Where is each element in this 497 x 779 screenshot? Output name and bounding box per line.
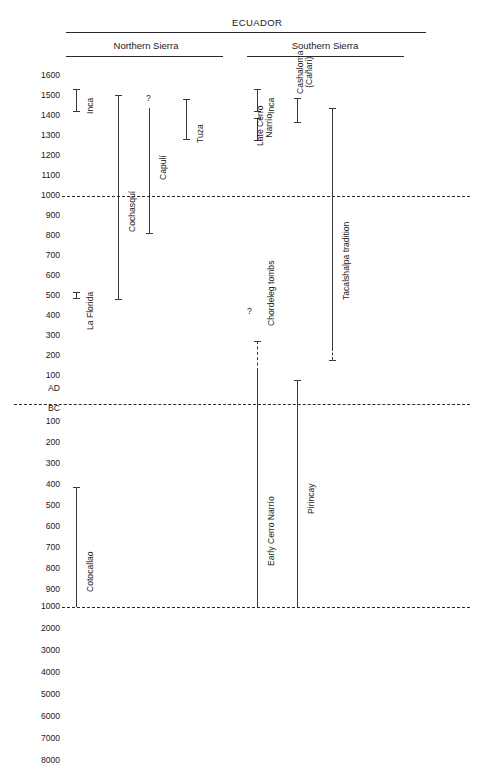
bar-label-cochasqui: Cochasquí	[128, 191, 138, 232]
tick-1300ad: 1300	[18, 131, 60, 140]
tick-1000ad: 1000	[18, 191, 60, 200]
bar-cap-pirincay-top	[294, 380, 301, 381]
tick-800bc: 800	[18, 564, 60, 573]
region-title: ECUADOR	[232, 17, 282, 28]
tick-600ad: 600	[18, 271, 60, 280]
tick-3000bc: 3000	[18, 646, 60, 655]
column-title-southern-sierra: Southern Sierra	[245, 40, 405, 51]
column-rule-northern-sierra	[66, 56, 223, 57]
tick-6000bc: 6000	[18, 712, 60, 721]
reference-line-1000ad	[62, 196, 470, 197]
bar-tacalshalpa-dashed-terminus	[332, 348, 333, 360]
bar-cap-capuli-bottom	[146, 233, 153, 234]
column-title-northern-sierra: Northern Sierra	[66, 40, 226, 51]
bar-cap-cashaloma-bottom	[294, 122, 301, 123]
bar-label-late-cerro-narrio: Late Cerro Narrío	[256, 105, 275, 146]
bar-capuli[interactable]	[149, 108, 150, 233]
bar-cap-tacalshalpa-top	[329, 108, 336, 109]
bar-label-la-florida: La Florida	[86, 292, 96, 330]
tick-900bc: 900	[18, 585, 60, 594]
bar-cap-inca-south-top	[254, 89, 261, 90]
bar-label-tuza: Tuza	[196, 124, 206, 143]
bar-chordeleg-dashed-terminus	[257, 341, 258, 371]
tick-1100ad: 1100	[18, 171, 60, 180]
bar-label-cashaloma-canari: Cashaloma (Cañari)	[296, 51, 315, 94]
bar-cap-tuza-top	[183, 99, 190, 100]
tick-1500ad: 1500	[18, 91, 60, 100]
tick-600bc: 600	[18, 522, 60, 531]
bar-early-cerro-narrio[interactable]	[257, 371, 258, 607]
tick-700ad: 700	[18, 251, 60, 260]
tick-100ad: 100	[18, 371, 60, 380]
bar-cap-inca-north-bottom	[73, 111, 80, 112]
tick-8000bc: 8000	[18, 756, 60, 765]
bar-label-capuli: Capulí	[159, 155, 169, 180]
bar-label-early-cerro-narrio: Early Cerro Narrío	[267, 496, 277, 566]
bar-label-tacalshalpa-tradition: Tacalshalpa tradition	[342, 222, 352, 300]
tick-800ad: 800	[18, 231, 60, 240]
bar-cap-cotocallao-top	[73, 487, 80, 488]
bar-cap-tuza-bottom	[183, 139, 190, 140]
bar-cap-la-florida-top	[73, 292, 80, 293]
bar-label-chordeleg-tombs: Chordeleg tombs	[267, 261, 277, 326]
bar-label-late-cerro-narrio-line2: Narrío	[264, 114, 274, 138]
bar-cashaloma-canari[interactable]	[297, 98, 298, 122]
tick-300bc: 300	[18, 459, 60, 468]
bar-cap-cochasqui-bottom	[115, 299, 122, 300]
tick-300ad: 300	[18, 331, 60, 340]
tick-500bc: 500	[18, 501, 60, 510]
bar-tacalshalpa-tradition[interactable]	[332, 108, 333, 348]
uncertainty-marker-chordeleg: ?	[247, 306, 252, 316]
bar-cap-tacalshalpa-bottom	[329, 360, 336, 361]
bar-cap-cochasqui-top	[115, 95, 122, 96]
bar-pirincay[interactable]	[297, 380, 298, 607]
bar-cap-cashaloma-top	[294, 98, 301, 99]
era-label-ad: AD	[18, 384, 60, 393]
tick-7000bc: 7000	[18, 734, 60, 743]
tick-4000bc: 4000	[18, 668, 60, 677]
bar-cap-la-florida-bottom	[73, 298, 80, 299]
tick-100bc: 100	[18, 417, 60, 426]
bar-cotocallao[interactable]	[76, 487, 77, 607]
tick-900ad: 900	[18, 211, 60, 220]
bar-label-inca-northern-sierra: Inca	[86, 98, 96, 114]
uncertainty-marker-capuli: ?	[146, 93, 151, 103]
tick-400ad: 400	[18, 311, 60, 320]
region-rule	[66, 32, 426, 33]
tick-2000bc: 2000	[18, 624, 60, 633]
reference-line-1000bc	[62, 607, 470, 608]
tick-700bc: 700	[18, 543, 60, 552]
bar-tuza[interactable]	[186, 99, 187, 139]
chronology-chart: ECUADOR Northern Sierra Southern Sierra …	[0, 0, 497, 779]
tick-500ad: 500	[18, 291, 60, 300]
tick-400bc: 400	[18, 480, 60, 489]
tick-5000bc: 5000	[18, 690, 60, 699]
reference-line-ad-bc	[14, 404, 470, 405]
bar-cap-inca-north-top	[73, 89, 80, 90]
tick-1600ad: 1600	[18, 71, 60, 80]
bar-cochasqui[interactable]	[118, 95, 119, 299]
tick-1400ad: 1400	[18, 111, 60, 120]
bar-label-pirincay: Pirincay	[307, 483, 317, 514]
column-rule-southern-sierra	[247, 56, 404, 57]
bar-label-cotocallao: Cotocallao	[86, 551, 96, 592]
tick-200ad: 200	[18, 351, 60, 360]
tick-1000bc: 1000	[18, 602, 60, 611]
bar-label-cashaloma-line2: (Cañari)	[304, 57, 314, 88]
tick-200bc: 200	[18, 438, 60, 447]
bar-inca-northern-sierra[interactable]	[76, 89, 77, 111]
era-label-bc: BC	[18, 404, 60, 413]
tick-1200ad: 1200	[18, 151, 60, 160]
